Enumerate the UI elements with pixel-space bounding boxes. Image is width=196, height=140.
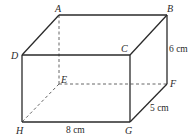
dimension-width: 5 cm bbox=[150, 103, 169, 113]
vertex-label-a: A bbox=[54, 3, 62, 14]
edge-BC bbox=[130, 15, 167, 55]
vertex-label-b: B bbox=[167, 3, 173, 14]
edge-AD bbox=[22, 15, 59, 55]
vertex-label-f: F bbox=[169, 78, 177, 89]
vertex-label-e: E bbox=[60, 74, 67, 85]
dimension-height: 6 cm bbox=[169, 44, 188, 54]
dimension-length: 8 cm bbox=[66, 125, 85, 135]
vertex-label-c: C bbox=[121, 43, 128, 54]
vertex-label-g: G bbox=[125, 125, 132, 136]
edge-EH bbox=[22, 84, 59, 122]
vertex-label-d: D bbox=[10, 50, 19, 61]
vertex-label-h: H bbox=[15, 125, 24, 136]
cuboid-diagram: A B C D E F G H 8 cm 6 cm 5 cm bbox=[0, 0, 196, 140]
